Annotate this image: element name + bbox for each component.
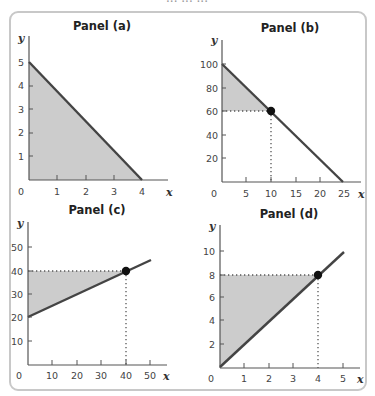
x-tick: 40 <box>120 370 132 381</box>
y-tick: 40 <box>11 266 23 277</box>
x-tick: 2 <box>83 186 89 197</box>
y-tick: 3 <box>18 104 24 115</box>
x-axis-label: x <box>357 188 365 201</box>
y-tick: 10 <box>203 246 215 257</box>
x-tick: 20 <box>314 188 326 199</box>
y-tick: 40 <box>206 130 218 141</box>
y-tick: 5 <box>18 57 24 68</box>
y-tick: 20 <box>11 312 23 323</box>
y-tick: 30 <box>11 289 23 300</box>
x-tick: 4 <box>139 186 145 197</box>
x-tick: 20 <box>71 370 83 381</box>
y-tick: 80 <box>206 83 218 94</box>
y-tick: 1 <box>18 151 24 162</box>
origin-label: 0 <box>16 370 22 381</box>
y-tick: 8 <box>209 270 215 281</box>
y-tick: 10 <box>11 336 23 347</box>
y-tick: 60 <box>206 106 218 117</box>
marked-point <box>314 271 322 279</box>
x-tick: 4 <box>315 373 321 384</box>
x-tick: 10 <box>265 188 277 199</box>
origin-label: 0 <box>18 186 24 197</box>
y-tick: 4 <box>209 315 215 326</box>
x-tick: 3 <box>111 186 117 197</box>
x-tick: 1 <box>241 373 247 384</box>
panel-a: Panel (a) 1 2 3 4 5 0 1 2 3 4 x y <box>17 19 173 199</box>
y-tick: 2 <box>209 339 215 350</box>
panel-title: Panel (d) <box>260 207 319 221</box>
panel-title: Panel (a) <box>73 19 131 33</box>
marked-point <box>267 107 275 115</box>
panel-title: Panel (c) <box>68 203 125 217</box>
panel-c: Panel (c) 10 20 30 40 50 0 10 20 30 40 5… <box>11 203 170 383</box>
marked-point <box>122 267 130 275</box>
y-tick: 20 <box>206 153 218 164</box>
origin-label: 0 <box>211 188 217 199</box>
y-tick: 6 <box>209 292 215 303</box>
x-tick: 2 <box>266 373 272 384</box>
x-tick: 25 <box>338 188 350 199</box>
x-tick: 5 <box>243 188 249 199</box>
x-tick: 30 <box>95 370 107 381</box>
x-axis-label: x <box>356 373 364 386</box>
x-tick: 10 <box>46 370 58 381</box>
panel-b: Panel (b) 20 40 60 80 100 0 5 10 15 20 2… <box>200 21 365 201</box>
x-axis-label: x <box>162 370 170 383</box>
panel-title: Panel (b) <box>261 21 320 35</box>
y-axis-label: y <box>17 32 26 45</box>
x-tick: 3 <box>290 373 296 384</box>
y-axis-label: y <box>208 220 217 233</box>
y-tick: 4 <box>18 80 24 91</box>
y-axis-label: y <box>16 217 25 230</box>
y-tick: 2 <box>18 127 24 138</box>
x-tick: 15 <box>290 188 302 199</box>
origin-label: 0 <box>208 373 214 384</box>
data-line <box>222 64 343 182</box>
y-tick: 50 <box>11 242 23 253</box>
x-tick: 50 <box>144 370 156 381</box>
panel-d: Panel (d) 2 4 6 8 10 0 1 2 3 4 5 x y <box>203 207 364 386</box>
x-tick: 5 <box>340 373 346 384</box>
x-tick: 1 <box>54 186 60 197</box>
y-tick: 100 <box>200 59 218 70</box>
x-axis-label: x <box>165 186 173 199</box>
caption-fragment: ... ... ... <box>166 0 208 5</box>
y-axis-label: y <box>210 34 219 47</box>
chart-figure: ... ... ... Panel (a) 1 2 3 4 5 0 1 2 3 … <box>0 0 375 396</box>
